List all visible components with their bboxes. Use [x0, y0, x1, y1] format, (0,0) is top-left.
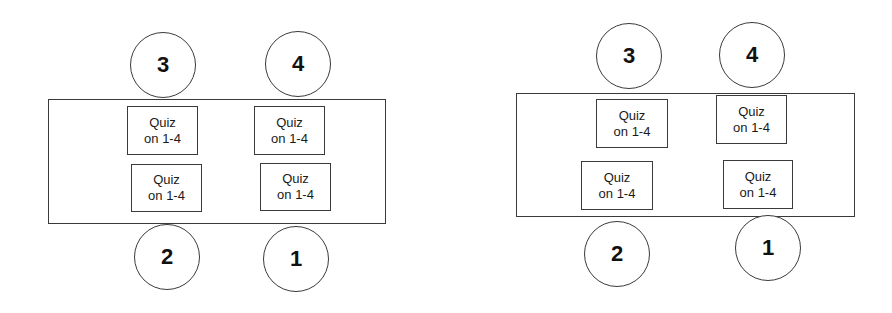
- seat-3: 3: [596, 23, 662, 89]
- quiz-card: Quiz on 1-4: [581, 161, 653, 210]
- table-b: [516, 93, 855, 217]
- quiz-subtitle: on 1-4: [277, 187, 314, 203]
- quiz-subtitle: on 1-4: [148, 188, 185, 204]
- seat-2: 2: [584, 221, 650, 287]
- table-a: [48, 99, 386, 224]
- seat-3: 3: [130, 32, 196, 98]
- quiz-title: Quiz: [153, 172, 180, 188]
- seat-4: 4: [719, 22, 785, 88]
- quiz-card: Quiz on 1-4: [260, 163, 331, 211]
- quiz-subtitle: on 1-4: [144, 131, 181, 147]
- quiz-title: Quiz: [619, 108, 646, 124]
- quiz-title: Quiz: [745, 169, 772, 185]
- seat-2: 2: [134, 224, 200, 290]
- quiz-card: Quiz on 1-4: [723, 160, 793, 209]
- quiz-title: Quiz: [282, 171, 309, 187]
- seating-diagrams: 3 4 2 1 Quiz on 1-4 Quiz on 1-4 Quiz on …: [0, 0, 892, 313]
- seat-1: 1: [735, 215, 801, 281]
- seat-1: 1: [263, 226, 329, 292]
- quiz-card: Quiz on 1-4: [127, 106, 198, 155]
- quiz-subtitle: on 1-4: [740, 185, 777, 201]
- quiz-card: Quiz on 1-4: [131, 164, 202, 212]
- seat-4: 4: [265, 31, 331, 97]
- quiz-card: Quiz on 1-4: [596, 99, 668, 148]
- quiz-title: Quiz: [738, 104, 765, 120]
- quiz-subtitle: on 1-4: [599, 186, 636, 202]
- quiz-card: Quiz on 1-4: [254, 106, 325, 155]
- quiz-subtitle: on 1-4: [614, 124, 651, 140]
- quiz-title: Quiz: [604, 170, 631, 186]
- quiz-card: Quiz on 1-4: [716, 95, 787, 144]
- quiz-title: Quiz: [149, 115, 176, 131]
- quiz-subtitle: on 1-4: [733, 120, 770, 136]
- quiz-subtitle: on 1-4: [271, 131, 308, 147]
- quiz-title: Quiz: [276, 115, 303, 131]
